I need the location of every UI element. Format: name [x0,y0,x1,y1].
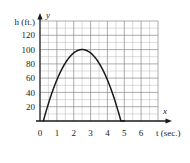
y-tick-label: 40 [26,88,36,98]
x-tick-label: 5 [122,128,127,138]
x-tick-label: 6 [139,128,144,138]
y-tick-label: 120 [22,30,36,40]
x-tick-label: 1 [55,128,60,138]
x-axis-label: t (sec.) [156,128,181,138]
x-tick-label: 3 [88,128,93,138]
y-tick-label: 60 [26,73,36,83]
chart-figure: h (ft.) y 20 40 60 80 100 120 0 1 2 3 4 … [0,0,190,163]
y-tick-label: 20 [26,102,36,112]
x-axis-letter: x [162,106,167,116]
projectile-height-chart: h (ft.) y 20 40 60 80 100 120 0 1 2 3 4 … [0,0,190,163]
y-axis-letter: y [45,10,50,20]
y-tick-label: 80 [26,59,36,69]
y-tick-label: 100 [22,45,36,55]
x-tick-label: 0 [38,128,43,138]
x-tick-label: 4 [105,128,110,138]
y-axis-label: h (ft.) [15,17,36,27]
x-tick-label: 2 [71,128,76,138]
